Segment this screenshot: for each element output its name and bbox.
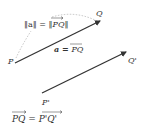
svg-text:‖a‖ = ‖PQ‖: ‖a‖ = ‖PQ‖ (24, 20, 69, 29)
vector-diagram: P Q P' Q' ‖a‖ = ‖PQ‖ a = PQ PQ = P'Q' (0, 0, 144, 136)
vector-pq-prime-arrow (42, 52, 126, 93)
equality-equation: PQ = P'Q' (11, 111, 62, 125)
svg-text:a = PQ: a = PQ (54, 44, 84, 54)
norm-equation: ‖a‖ = ‖PQ‖ (24, 17, 69, 30)
point-p-label: P (7, 57, 14, 66)
point-p-prime-label: P' (41, 98, 50, 107)
svg-text:PQ = P'Q': PQ = P'Q' (11, 114, 57, 124)
point-q-prime-label: Q' (128, 56, 137, 65)
vector-definition: a = PQ (54, 44, 84, 54)
point-q-label: Q (96, 9, 103, 18)
dashed-leader-p (16, 31, 31, 58)
